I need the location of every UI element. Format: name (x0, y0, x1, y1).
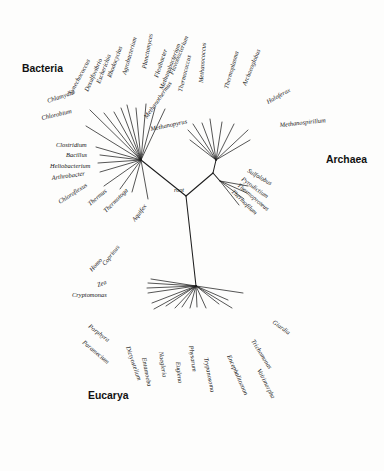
tree-branch-thermotoga (132, 160, 141, 192)
taxon-label-methanopyrus: Methanopyrus (149, 117, 188, 132)
taxon-label-clostridium: Clostridium (56, 141, 87, 148)
taxon-label-coprinus: Coprinus (100, 243, 121, 267)
taxon-label-haloferax: Haloferax (264, 86, 291, 105)
tree-branch-homo (148, 283, 196, 286)
taxon-label-methanospirillum: Methanospirillum (278, 116, 326, 128)
root-label: root (174, 186, 184, 193)
taxon-label-porphyra: Porphyra (87, 322, 112, 343)
taxon-label-naegleria: Naegleria (158, 350, 169, 377)
taxon-labels: ChlamydiaChlorobiumSynechococcusDesulfov… (41, 32, 327, 399)
tree-backbone (141, 160, 220, 286)
tree-branch-paramecium (154, 286, 196, 309)
taxon-label-thermus: Thermus (86, 187, 108, 207)
tree-branch-bacillus (100, 155, 141, 160)
taxon-label-physarum: Physarum (188, 344, 199, 372)
tree-branch-thermus (120, 160, 141, 189)
taxon-label-zea: Zea (96, 278, 107, 288)
tree-branch-chloroflexus (104, 160, 141, 186)
taxon-label-trypanosoma: Trypanosoma (203, 357, 217, 393)
taxon-label-cryptomonas: Cryptomonas (72, 291, 107, 298)
taxon-label-dictyostelium: Dictyostelium (125, 344, 144, 381)
backbone-archaea (186, 173, 213, 196)
taxon-label-vairimorpha: Vairimorpha (256, 367, 277, 399)
taxon-label-homo: Homo (87, 256, 103, 273)
taxon-label-chlorobium: Chlorobium (41, 107, 73, 121)
taxon-label-chloroflexus: Chloroflexus (57, 181, 89, 205)
tree-branch-rhodocyclus (127, 105, 141, 160)
taxon-label-trichomonas: Trichomonas (250, 338, 274, 371)
taxon-label-planctomyces: Planctomyces (140, 32, 154, 70)
backbone-eucarya (186, 196, 196, 286)
taxon-label-aquifex: Aquifex (130, 203, 148, 224)
taxon-label-methanococcus: Methanococcus (197, 42, 207, 84)
taxon-label-agrobacterium: Agrobacterium (120, 36, 138, 76)
taxon-label-heliobacterium: Heliobacterium (49, 162, 91, 169)
tree-branch-escherichia (121, 108, 141, 160)
taxon-label-entamoeba: Entamoeba (141, 356, 154, 387)
domain-label-bacteria: Bacteria (22, 63, 63, 74)
taxon-label-giardia: Giardia (271, 318, 291, 336)
domain-label-eucarya: Eucarya (88, 390, 129, 401)
taxon-label-euglena: Euglena (175, 360, 184, 383)
taxon-label-arthrobacter: Arthrobacter (50, 169, 86, 181)
taxon-label-encephalitozoon: Encephalitozoon (226, 353, 250, 396)
tree-branch-methanococcus (210, 119, 216, 160)
phylogenetic-tree-figure: ChlamydiaChlorobiumSynechococcusDesulfov… (0, 0, 384, 471)
taxon-label-thermoplasma: Thermoplasma (222, 50, 239, 89)
root-label-group: root (174, 186, 184, 193)
tree-branch-chlorobium (86, 126, 141, 160)
tree-branch-physarum (196, 286, 197, 307)
domain-label-archaea: Archaea (326, 154, 367, 165)
backbone-crenarchaeota (213, 173, 220, 181)
tree-canvas: ChlamydiaChlorobiumSynechococcusDesulfov… (0, 0, 384, 471)
backbone-euryarchaeota (213, 160, 216, 173)
taxon-label-archaeoglobus: Archaeoglobus (240, 47, 262, 87)
tree-branch-haloferax (216, 130, 248, 160)
tree-branch-synechococcus (104, 113, 141, 160)
tree-branch-methanothermus (188, 130, 216, 160)
tree-branch-naegleria (182, 286, 196, 307)
tree-branch-aquifex (141, 160, 148, 199)
taxon-label-bacillus: Bacillus (66, 151, 88, 158)
